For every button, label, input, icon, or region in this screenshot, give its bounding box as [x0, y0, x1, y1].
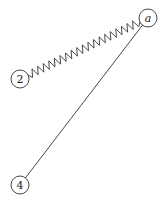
node-4-label: 4: [17, 179, 24, 192]
node-4: 4: [11, 176, 29, 194]
graph-diagram: a 2 4: [0, 0, 168, 206]
node-a: a: [139, 9, 157, 27]
node-2-label: 2: [17, 73, 24, 86]
line-edge-4-to-a: [25, 25, 142, 178]
node-2: 2: [11, 70, 29, 88]
edges-layer: [25, 21, 142, 178]
spring-edge-2-to-a: [28, 21, 140, 77]
node-a-label: a: [145, 12, 152, 25]
